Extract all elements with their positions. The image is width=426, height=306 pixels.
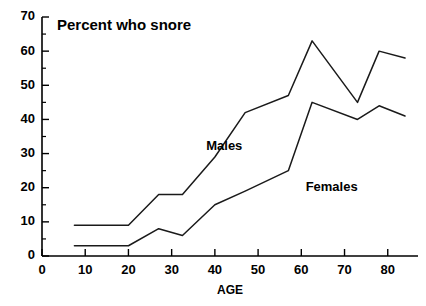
y-axis: 010203040506070 xyxy=(21,8,49,262)
y-tick-label: 0 xyxy=(28,247,35,262)
y-tick-label: 40 xyxy=(21,111,35,126)
x-tick-label: 80 xyxy=(381,262,395,277)
series-line-females xyxy=(74,102,405,245)
series-label-males: Males xyxy=(206,138,242,153)
x-tick-label: 70 xyxy=(337,262,351,277)
chart-title: Percent who snore xyxy=(57,16,191,33)
y-axis-tick-labels: 010203040506070 xyxy=(21,8,35,262)
x-axis: 01020304050607080 xyxy=(38,249,418,277)
y-tick-label: 20 xyxy=(21,179,35,194)
y-tick-label: 60 xyxy=(21,43,35,58)
y-tick-label: 10 xyxy=(21,213,35,228)
x-tick-label: 50 xyxy=(251,262,265,277)
x-tick-label: 10 xyxy=(78,262,92,277)
chart-container: 010203040506070 01020304050607080 Percen… xyxy=(0,0,426,306)
x-tick-label: 60 xyxy=(294,262,308,277)
snoring-line-chart: 010203040506070 01020304050607080 Percen… xyxy=(0,0,426,306)
y-tick-label: 50 xyxy=(21,77,35,92)
x-axis-title: AGE xyxy=(217,283,243,297)
x-tick-label: 0 xyxy=(38,262,45,277)
x-tick-label: 30 xyxy=(164,262,178,277)
x-tick-label: 40 xyxy=(208,262,222,277)
x-axis-major-ticks xyxy=(42,249,388,256)
x-tick-label: 20 xyxy=(121,262,135,277)
y-tick-label: 70 xyxy=(21,8,35,23)
x-axis-tick-labels: 01020304050607080 xyxy=(38,262,395,277)
series-line-males xyxy=(74,41,405,225)
series-label-females: Females xyxy=(306,179,358,194)
y-tick-label: 30 xyxy=(21,145,35,160)
